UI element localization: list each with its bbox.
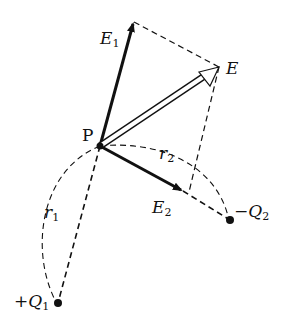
label-e1: E1: [100, 30, 119, 49]
field-diagram: [0, 0, 286, 335]
r1-arc: [42, 146, 100, 300]
label-r2: r2: [159, 145, 174, 164]
label-q1-sub: 1: [42, 300, 49, 313]
label-q2-main: −Q: [234, 201, 262, 221]
r2-line: [183, 191, 230, 220]
label-q2: −Q2: [234, 203, 269, 222]
label-e: E: [226, 60, 238, 77]
label-q1: +Q1: [14, 293, 49, 312]
point-p: [97, 143, 104, 150]
label-r1: r1: [44, 204, 59, 223]
label-e2-sub: 2: [164, 206, 171, 219]
charge-q1: [54, 299, 62, 307]
label-e2-main: E: [152, 197, 164, 217]
label-e2: E2: [152, 199, 171, 218]
label-r1-main: r: [44, 202, 52, 222]
label-p: P: [82, 127, 93, 144]
parallelogram-top-edge: [134, 22, 219, 67]
label-e1-main: E: [100, 28, 112, 48]
label-r1-sub: 1: [52, 211, 59, 224]
label-r2-sub: 2: [167, 152, 174, 165]
label-q2-sub: 2: [262, 210, 269, 223]
label-r2-main: r: [159, 143, 167, 163]
label-e1-sub: 1: [112, 37, 119, 50]
label-q1-main: +Q: [14, 291, 42, 311]
charge-q2: [226, 216, 234, 224]
r1-line: [58, 146, 100, 303]
